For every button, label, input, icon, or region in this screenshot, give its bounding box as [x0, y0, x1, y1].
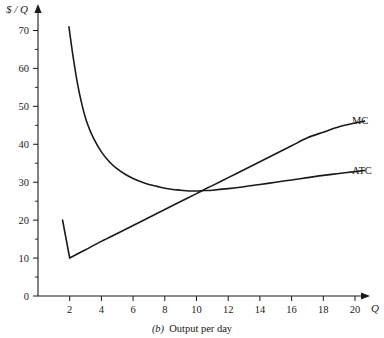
- chart-canvas: 0102030405060702468101214161820 $ / Q Q …: [0, 0, 384, 338]
- figure-caption-label: Output per day: [169, 323, 233, 334]
- y-axis-tick-label: 10: [19, 253, 30, 264]
- x-axis-tick-label: 20: [350, 304, 361, 315]
- figure-caption: (b)Output per day: [152, 323, 233, 335]
- x-axis-tick-label: 18: [318, 304, 329, 315]
- x-axis-tick-label: 12: [223, 304, 234, 315]
- y-axis-tick-label: 70: [19, 25, 30, 36]
- x-axis-arrow-icon: [361, 292, 370, 299]
- y-axis-tick-label: 20: [19, 215, 30, 226]
- economics-cost-curve-figure: 0102030405060702468101214161820 $ / Q Q …: [0, 0, 384, 338]
- curve-label-atc: ATC: [352, 165, 372, 176]
- x-axis-tick-label: 2: [67, 304, 72, 315]
- x-axis-tick-label: 8: [162, 304, 167, 315]
- y-axis-tick-label: 0: [24, 291, 29, 302]
- y-axis-tick-label: 40: [19, 139, 30, 150]
- y-axis-title: $ / Q: [6, 3, 28, 15]
- axis-tick-labels: 0102030405060702468101214161820: [19, 25, 361, 315]
- x-axis-tick-label: 10: [191, 304, 202, 315]
- figure-caption-tag: (b): [152, 323, 165, 335]
- x-axis-tick-label: 16: [286, 304, 297, 315]
- axes: [34, 4, 370, 300]
- curve-label-mc: MC: [352, 115, 368, 126]
- y-axis-arrow-icon: [34, 4, 41, 13]
- curves: [63, 27, 365, 258]
- x-axis-tick-label: 4: [99, 304, 105, 315]
- curve-atc: [69, 27, 365, 191]
- y-axis-tick-label: 60: [19, 63, 30, 74]
- x-axis-title: Q: [371, 302, 379, 314]
- x-axis-tick-label: 14: [255, 304, 266, 315]
- x-axis-tick-label: 6: [130, 304, 135, 315]
- axis-ticks: [33, 30, 355, 301]
- y-axis-tick-label: 30: [19, 177, 30, 188]
- y-axis-tick-label: 50: [19, 101, 30, 112]
